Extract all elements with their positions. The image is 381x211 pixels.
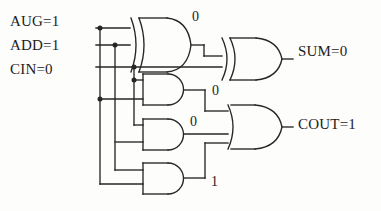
- circuit-schematic-svg: [0, 0, 381, 211]
- gate-or1-back-arc: [228, 105, 233, 149]
- circuit-diagram: AUG=1 ADD=1 CIN=0 SUM=0 COUT=1 0 0 0 1: [0, 0, 381, 211]
- gate-or1-nose: [255, 105, 282, 149]
- gate-xor2-back-arc: [222, 38, 227, 80]
- gate-xor2-nose: [256, 38, 282, 80]
- gate-and2-nose: [168, 119, 183, 150]
- junction-dot-cin-and1: [132, 78, 137, 83]
- gate-xor1-back-arc: [131, 18, 136, 72]
- junction-dot-aug-and1: [98, 97, 103, 102]
- junction-dot-aug: [98, 26, 103, 31]
- gate-xor1-body-arc: [139, 18, 144, 72]
- gate-xor1-nose: [167, 18, 191, 72]
- gate-and1-nose: [168, 74, 183, 105]
- gate-xor2-body-arc: [230, 38, 235, 80]
- junction-dot-add: [113, 43, 118, 48]
- gate-and3-nose: [168, 163, 183, 194]
